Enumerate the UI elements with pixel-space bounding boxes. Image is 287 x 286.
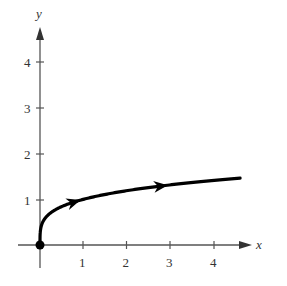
x-axis: x — [18, 237, 262, 252]
x-tick-label-4: 4 — [210, 255, 217, 270]
x-tick-label-3: 3 — [166, 255, 173, 270]
y-axis: y — [34, 6, 44, 268]
x-axis-arrow-icon — [239, 241, 252, 249]
y-tick-label-2: 2 — [24, 147, 31, 162]
y-tick-label-4: 4 — [24, 55, 31, 70]
y-tick-label-1: 1 — [24, 193, 31, 208]
x-tick-label-1: 1 — [79, 255, 86, 270]
curve — [36, 178, 241, 249]
x-axis-label: x — [255, 237, 262, 252]
y-axis-label: y — [34, 6, 42, 21]
x-tick-label-2: 2 — [123, 255, 130, 270]
start-point — [36, 241, 45, 250]
y-tick-label-3: 3 — [24, 101, 31, 116]
y-axis-arrow-icon — [36, 27, 44, 40]
y-ticks: 1 2 3 4 — [24, 55, 44, 208]
chart: x y 1 2 3 4 1 2 3 4 — [0, 0, 287, 286]
